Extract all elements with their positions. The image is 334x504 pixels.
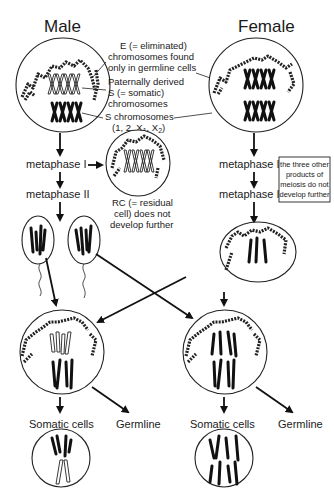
svg-text:S (= somatic): S (= somatic) (108, 87, 164, 98)
female-germline-label: Germline (278, 418, 323, 430)
svg-text:develop further: develop further (110, 219, 173, 230)
female-to-germline-arrow (256, 387, 292, 412)
svg-text:products of: products of (286, 170, 324, 179)
svg-text:only in germline cells: only in germline cells (108, 62, 196, 73)
female-zygote (183, 310, 267, 394)
svg-text:S chromosomes: S chromosomes (105, 111, 174, 122)
svg-text:RC (= residual: RC (= residual (112, 197, 173, 208)
female-metaphase-1: metaphase I (219, 158, 280, 170)
s-chromosome-annotation: S chromosomes (1, 2, X1, X2) (82, 111, 212, 134)
male-germline-label: Germline (116, 418, 161, 430)
female-germ-cell (209, 38, 303, 132)
egg-cell (220, 222, 296, 282)
sperm-1 (22, 216, 54, 296)
svg-text:E (= eliminated): E (= eliminated) (120, 40, 187, 51)
female-note-box: the three other products of meiosis do n… (279, 157, 330, 202)
e-chromosome-annotation: E (= eliminated) chromosomes found only … (92, 40, 216, 80)
svg-text:develop further: develop further (279, 190, 330, 199)
svg-text:chromosomes: chromosomes (108, 98, 168, 109)
svg-text:chromosomes found: chromosomes found (108, 51, 194, 62)
female-title: Female (238, 17, 295, 36)
male-zygote (20, 310, 104, 394)
male-somatic-cell (32, 429, 90, 487)
male-title: Male (44, 17, 81, 36)
male-germ-cell (16, 38, 110, 132)
sperm1-to-male-zygote (46, 258, 56, 305)
svg-text:Paternally derived: Paternally derived (108, 76, 184, 87)
female-metaphase-2: metaphase II (219, 188, 283, 200)
sperm-2 (68, 216, 100, 298)
svg-text:meiosis do not: meiosis do not (280, 180, 329, 189)
male-metaphase-1: metaphase I (26, 158, 87, 170)
sperm2-to-female-zygote (96, 254, 192, 318)
svg-text:cell) does not: cell) does not (114, 208, 171, 219)
male-metaphase-2: metaphase II (26, 188, 90, 200)
male-to-germline-arrow (92, 387, 128, 412)
rc-annotation: RC (= residual cell) does not develop fu… (110, 197, 173, 230)
svg-text:the three other: the three other (280, 160, 329, 169)
female-somatic-cell (195, 429, 253, 487)
residual-cell (106, 130, 170, 196)
male-somatic-label: Somatic cells (29, 418, 94, 430)
female-somatic-label: Somatic cells (190, 418, 255, 430)
sciara-chromosome-diagram: Male Female E (= eliminated) chromosomes… (0, 0, 334, 504)
